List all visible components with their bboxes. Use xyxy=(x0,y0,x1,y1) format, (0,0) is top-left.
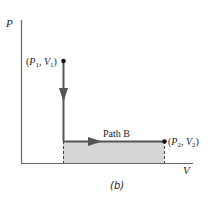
point-start xyxy=(61,59,66,64)
point-end xyxy=(162,139,167,144)
path-label: Path B xyxy=(103,129,130,139)
y-axis-label: P xyxy=(6,18,13,29)
start-point-label: (P1, V1) xyxy=(26,57,57,69)
work-area xyxy=(63,141,164,163)
figure-caption: (b) xyxy=(110,180,124,191)
x-axis-label: V xyxy=(183,165,190,176)
arrow-down-icon xyxy=(59,88,68,102)
end-point-label: (P2, V2) xyxy=(168,137,199,149)
